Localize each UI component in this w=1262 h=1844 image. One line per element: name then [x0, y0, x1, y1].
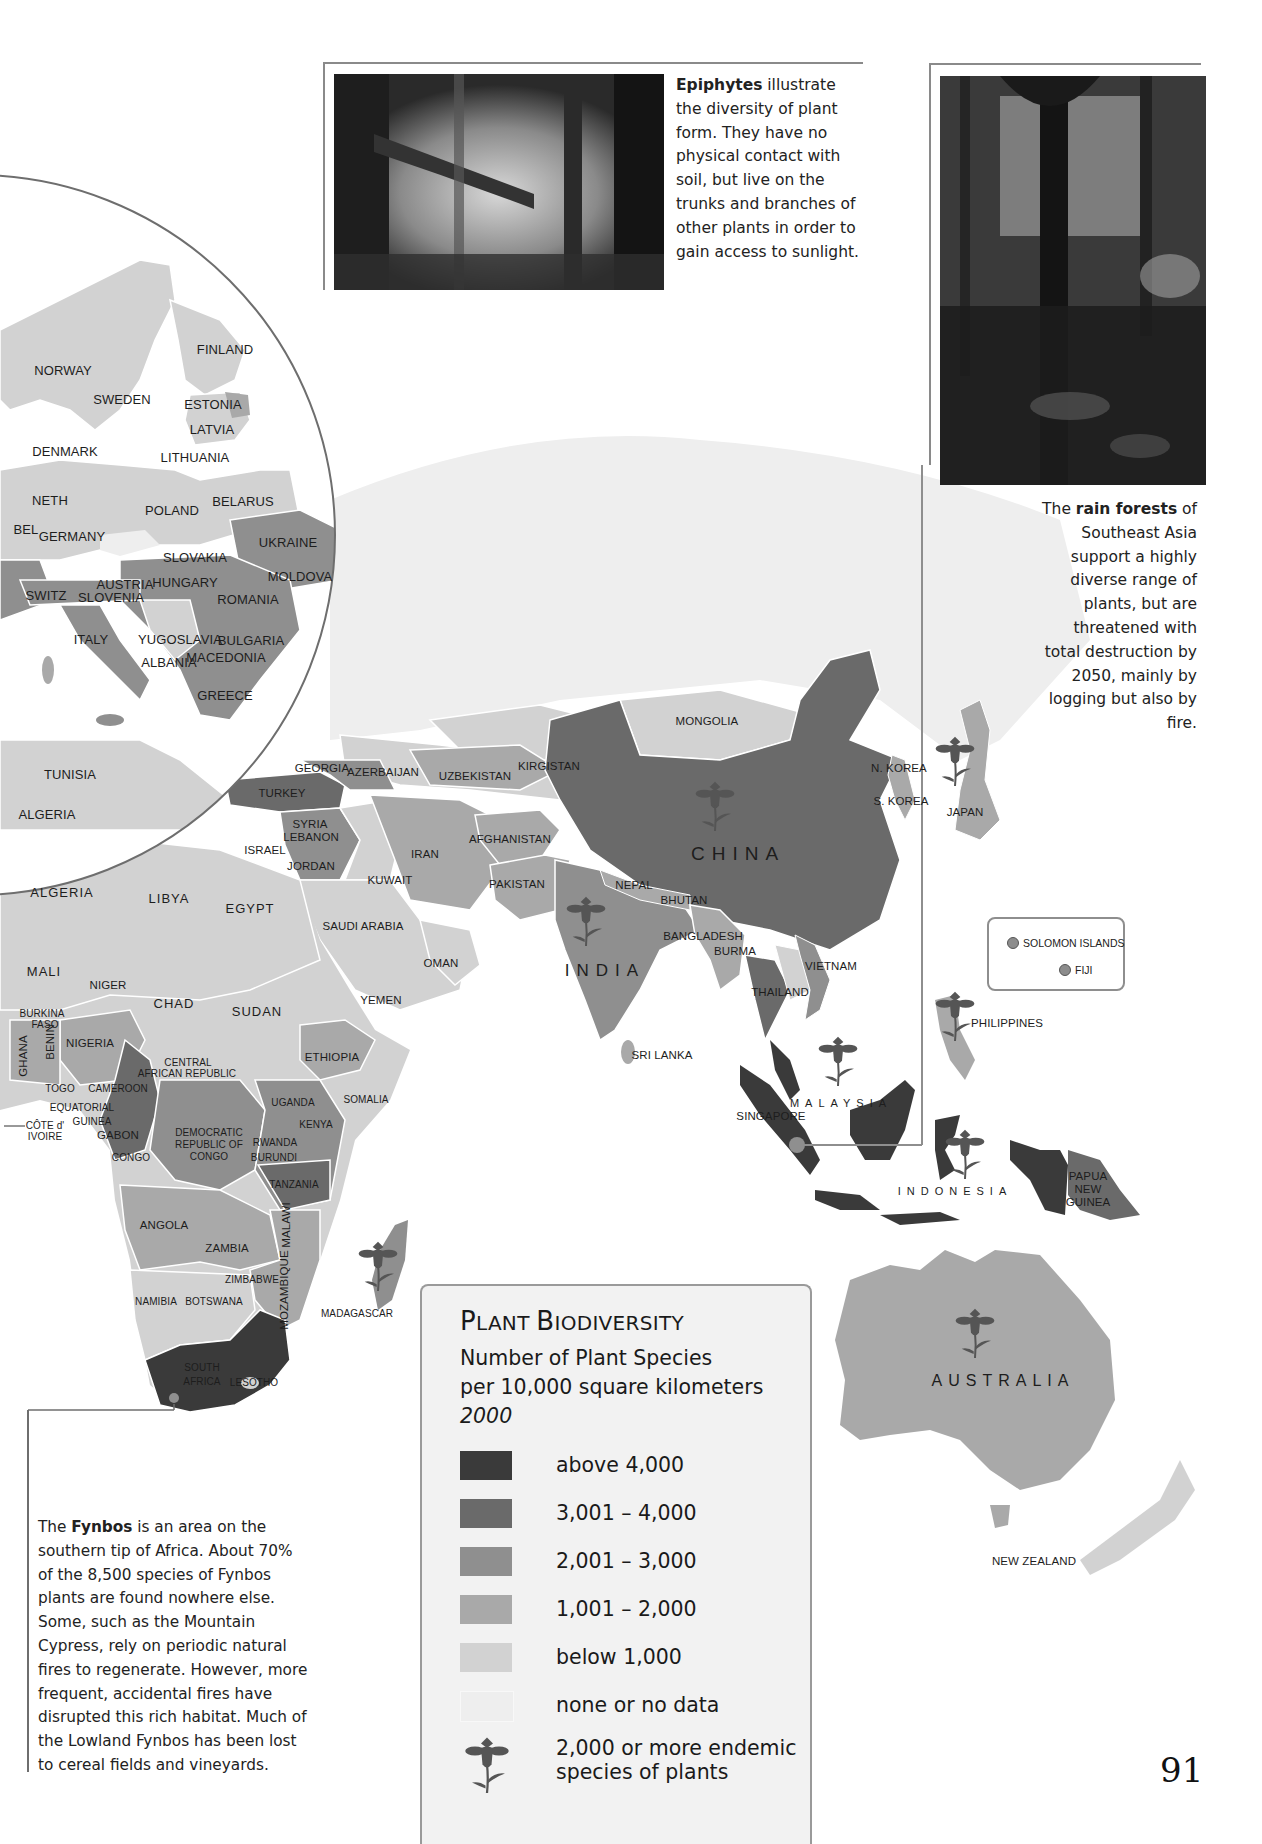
- map-label-finland: FINLAND: [197, 344, 253, 356]
- epiphytes-caption-bold: Epiphytes: [676, 76, 762, 94]
- map-label-poland: POLAND: [145, 505, 199, 517]
- map-label-macedonia: MACEDONIA: [186, 652, 266, 664]
- legend-title-cap: P: [460, 1306, 476, 1336]
- inset-item-solomon-islands: SOLOMON ISLANDS: [1007, 937, 1125, 949]
- map-label-new-zealand: NEW ZEALAND: [992, 1555, 1076, 1567]
- map-label-india: INDIA: [565, 965, 645, 977]
- legend-title: PLANT BIODIVERSITY: [460, 1306, 684, 1336]
- map-label-israel: ISRAEL: [244, 844, 286, 856]
- legend-item-1001-2000: 1,001 – 2,000: [460, 1595, 800, 1625]
- map-label-madagascar: MADAGASCAR: [321, 1308, 393, 1320]
- map-label-japan: JAPAN: [947, 806, 984, 818]
- map-label-vietnam: VIETNAM: [805, 960, 857, 972]
- map-label-cameroon: CAMEROON: [88, 1083, 148, 1095]
- map-label-new: NEW: [1074, 1183, 1101, 1195]
- map-label-mali: MALI: [27, 966, 61, 978]
- legend-subtitle-2: per 10,000 square kilometers: [460, 1375, 763, 1399]
- legend-title-cap: B: [536, 1306, 554, 1336]
- map-label-singapore: SINGAPORE: [736, 1110, 805, 1122]
- legend-item-below-1000: below 1,000: [460, 1643, 800, 1673]
- legend-swatch: [460, 1499, 512, 1528]
- map-label-togo: TOGO: [45, 1083, 75, 1095]
- map-label-saudi-arabia: SAUDI ARABIA: [322, 920, 403, 932]
- legend-item-no-data: none or no data: [460, 1691, 800, 1721]
- map-label-botswana: BOTSWANA: [185, 1296, 243, 1308]
- map-label-lithuania: LITHUANIA: [161, 452, 230, 464]
- legend-title-smallcaps: IODIVERSITY: [554, 1311, 683, 1335]
- map-label-yemen: YEMEN: [360, 994, 401, 1006]
- map-label-ukraine: UKRAINE: [259, 537, 318, 549]
- inset-label: FIJI: [1075, 964, 1093, 976]
- epiphytes-frame-top: [323, 62, 863, 64]
- map-label-angola: ANGOLA: [140, 1219, 189, 1231]
- map-label-lebanon: LEBANON: [283, 831, 339, 843]
- map-label-iran: IRAN: [411, 848, 439, 860]
- map-label-jordan: JORDAN: [287, 860, 335, 872]
- map-label-slovakia: SLOVAKIA: [163, 552, 227, 564]
- legend-item-3001-4000: 3,001 – 4,000: [460, 1499, 800, 1529]
- rainforests-caption-pre: The: [1042, 500, 1076, 518]
- map-label-ghana: GHANA: [17, 1035, 29, 1076]
- legend-swatch: [460, 1595, 512, 1624]
- legend-item-2001-3000: 2,001 – 3,000: [460, 1547, 800, 1577]
- map-label-oman: OMAN: [424, 957, 459, 969]
- map-label-sri-lanka: SRI LANKA: [632, 1049, 693, 1061]
- legend-item-endemic: 2,000 or more endemic species of plants: [460, 1736, 800, 1796]
- rainforests-caption: The rain forests of Southeast Asia suppo…: [1040, 498, 1197, 736]
- map-label-norway: NORWAY: [34, 365, 91, 377]
- map-label-libya: LIBYA: [149, 893, 190, 905]
- map-label-thailand: THAILAND: [751, 986, 809, 998]
- map-label-somalia: SOMALIA: [343, 1094, 388, 1106]
- map-label-belarus: BELARUS: [212, 496, 273, 508]
- map-label-australia: AUSTRALIA: [932, 1375, 1075, 1387]
- map-label-syria: SYRIA: [292, 818, 327, 830]
- map-label-equatorial: EQUATORIAL: [50, 1102, 115, 1114]
- rainforests-caption-text: of Southeast Asia support a highly diver…: [1045, 500, 1197, 732]
- map-label-switz: SWITZ: [26, 590, 67, 602]
- legend-year: 2000: [460, 1404, 512, 1428]
- legend-swatch: [460, 1451, 512, 1480]
- map-label-greece: GREECE: [197, 690, 253, 702]
- map-label-republic-of: REPUBLIC OF: [175, 1139, 243, 1151]
- map-label-ethiopia: ETHIOPIA: [305, 1051, 359, 1063]
- inset-label: SOLOMON ISLANDS: [1023, 937, 1125, 949]
- rainforest-frame-top: [929, 63, 1201, 65]
- map-label-china: CHINA: [691, 848, 785, 860]
- legend-endemic-line-1: 2,000 or more endemic: [556, 1736, 796, 1760]
- map-label-egypt: EGYPT: [225, 903, 274, 915]
- map-label-zimbabwe: ZIMBABWE: [225, 1274, 279, 1286]
- map-label-estonia: ESTONIA: [184, 399, 242, 411]
- legend-item-above-4000: above 4,000: [460, 1451, 800, 1481]
- map-label-kuwait: KUWAIT: [368, 874, 413, 886]
- map-label-tunisia: TUNISIA: [44, 769, 96, 781]
- map-label-s-korea: S. KOREA: [873, 795, 928, 807]
- map-label-papua: PAPUA: [1069, 1170, 1108, 1182]
- map-label-congo: CONGO: [190, 1151, 228, 1163]
- legend-label: 1,001 – 2,000: [556, 1597, 697, 1621]
- map-label-guinea: GUINEA: [73, 1116, 112, 1128]
- legend-label: below 1,000: [556, 1645, 682, 1669]
- map-label-ivoire: IVOIRE: [28, 1131, 63, 1143]
- map-label-uganda: UGANDA: [271, 1097, 314, 1109]
- map-label-indonesia: INDONESIA: [898, 1185, 1013, 1197]
- page-number: 91: [1160, 1750, 1203, 1790]
- island-dot-icon: [1059, 964, 1071, 976]
- map-label-afghanistan: AFGHANISTAN: [469, 833, 551, 845]
- fynbos-caption: The Fynbos is an area on the southern ti…: [38, 1516, 308, 1778]
- map-label-slovenia: SLOVENIA: [78, 592, 144, 604]
- map-label-denmark: DENMARK: [32, 446, 98, 458]
- map-label-niger: NIGER: [90, 979, 127, 991]
- map-label-malaysia: MALAYSIA: [790, 1097, 892, 1109]
- legend-panel: PLANT BIODIVERSITY Number of Plant Speci…: [420, 1284, 812, 1844]
- map-label-burma: BURMA: [714, 945, 756, 957]
- epiphytes-caption: Epiphytes illustrate the diversity of pl…: [676, 74, 866, 264]
- map-label-democratic: DEMOCRATIC: [175, 1127, 242, 1139]
- map-label-algeria: ALGERIA: [18, 809, 75, 821]
- map-label-germany: GERMANY: [39, 531, 105, 543]
- map-label-guinea: GUINEA: [1066, 1196, 1111, 1208]
- map-label-gabon: GABON: [97, 1129, 139, 1141]
- map-label-latvia: LATVIA: [190, 424, 234, 436]
- map-label-malawi: MALAWI: [280, 1202, 292, 1248]
- map-label-hungary: HUNGARY: [152, 577, 217, 589]
- map-label-romania: ROMANIA: [217, 594, 278, 606]
